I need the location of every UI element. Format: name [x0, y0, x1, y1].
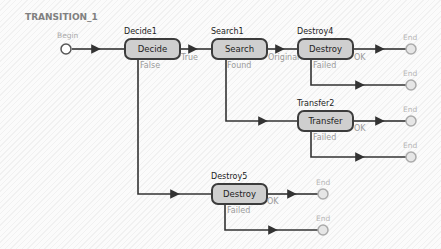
diagram-canvas[interactable]: TRANSITION_1 Begin Decide1 Decide True F…: [0, 0, 441, 249]
end-label: End: [403, 33, 417, 42]
node-name-destroy4: Destroy4: [297, 27, 333, 36]
port-label-failed: Failed: [313, 133, 336, 142]
begin-label: Begin: [57, 31, 78, 40]
node-destroy4[interactable]: Destroy: [297, 38, 354, 60]
end-terminal-icon[interactable]: [406, 152, 416, 162]
node-name-search1: Search1: [211, 27, 244, 36]
end-label: End: [316, 178, 330, 187]
node-decide1[interactable]: Decide: [124, 38, 181, 60]
port-label-original: Original: [268, 53, 299, 62]
port-label-failed: Failed: [313, 61, 336, 70]
end-label: End: [403, 105, 417, 114]
end-terminal-icon[interactable]: [318, 189, 328, 199]
port-label-failed: Failed: [227, 206, 250, 215]
node-name-decide1: Decide1: [124, 27, 157, 36]
port-label-ok: OK: [354, 124, 366, 133]
begin-terminal-icon[interactable]: [61, 44, 71, 54]
node-destroy5[interactable]: Destroy: [211, 183, 268, 205]
port-label-false: False: [140, 61, 160, 70]
node-transfer2[interactable]: Transfer: [297, 110, 354, 132]
port-label-found: Found: [227, 61, 251, 70]
port-label-ok: OK: [354, 53, 366, 62]
end-label: End: [403, 69, 417, 78]
diagram-title: TRANSITION_1: [25, 12, 98, 22]
node-name-destroy5: Destroy5: [211, 172, 247, 181]
end-label: End: [403, 141, 417, 150]
node-search1[interactable]: Search: [211, 38, 268, 60]
end-terminal-icon[interactable]: [406, 116, 416, 126]
port-label-true: True: [181, 53, 198, 62]
end-terminal-icon[interactable]: [406, 44, 416, 54]
end-label: End: [316, 214, 330, 223]
port-label-ok: OK: [267, 197, 279, 206]
end-terminal-icon[interactable]: [406, 80, 416, 90]
edge-decide-destroy5[interactable]: [138, 60, 175, 194]
end-terminal-icon[interactable]: [318, 225, 328, 235]
node-name-transfer2: Transfer2: [297, 99, 334, 108]
